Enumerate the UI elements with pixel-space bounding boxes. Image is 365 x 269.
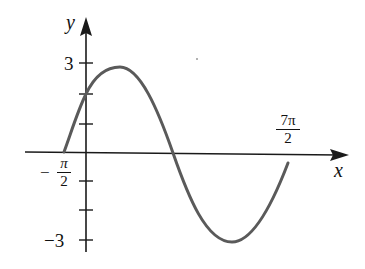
x-axis: [25, 152, 340, 155]
sine-graph: [0, 0, 365, 269]
x-axis-label: x: [334, 160, 343, 180]
y-max-label: 3: [64, 54, 74, 73]
y-axis-label: y: [66, 12, 75, 32]
x-left-sign: −: [40, 164, 50, 181]
y-min-label: −3: [44, 231, 64, 250]
x-right-tick-label: 7π 2: [276, 113, 300, 146]
x-left-tick-label: π 2: [57, 156, 71, 189]
stray-dot: [196, 58, 198, 60]
